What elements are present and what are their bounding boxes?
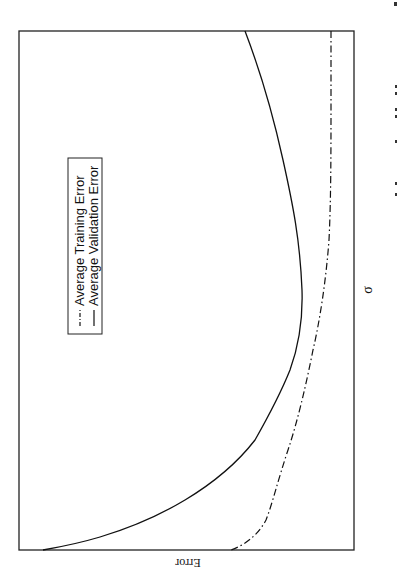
legend-training-label: Average Training Error — [72, 175, 87, 306]
x-axis-label: σ — [360, 286, 375, 294]
cropped-caption-fragment — [394, 2, 397, 196]
legend-validation-label: Average Validation Error — [86, 165, 101, 306]
y-axis-label: Error — [175, 556, 200, 570]
training-error-curve — [231, 31, 331, 550]
legend: Average Training Error Average Validatio… — [68, 158, 102, 334]
error-vs-sigma-chart: Average Training Error Average Validatio… — [0, 0, 398, 577]
